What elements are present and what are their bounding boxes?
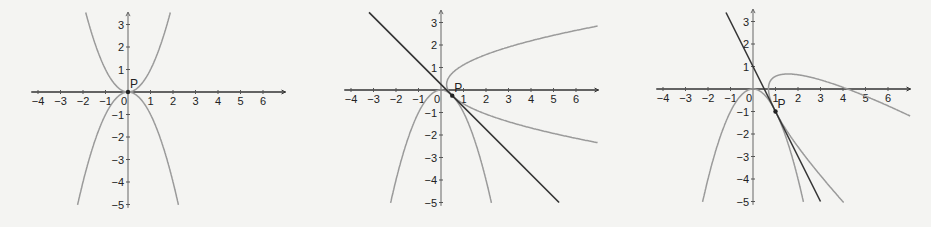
x-tick-label: 6 [260, 95, 266, 107]
y-tick-label: −2 [736, 128, 749, 140]
x-tick-label: −1 [412, 93, 425, 105]
x-tick-label: 0 [434, 93, 440, 105]
x-tick-label: −1 [99, 95, 112, 107]
x-tick-label: 4 [840, 92, 846, 104]
x-tick-label: −4 [657, 92, 670, 104]
x-tick-label: 1 [147, 95, 153, 107]
point-p-label: P [130, 77, 138, 91]
x-tick-label: −3 [54, 95, 67, 107]
y-tick-label: −4 [736, 173, 749, 185]
x-tick-label: −1 [724, 92, 737, 104]
x-tick-label: 0 [746, 92, 752, 104]
y-tick-label: −3 [111, 154, 124, 166]
x-tick-label: 5 [862, 92, 868, 104]
plots-canvas: −4−3−2−10123456321−1−2−3−4−5P −4−3−2−101… [0, 0, 931, 227]
point-p-label: P [454, 81, 462, 95]
y-tick-label: −5 [736, 196, 749, 208]
x-tick-label: 3 [192, 95, 198, 107]
x-tick-label: −4 [345, 93, 358, 105]
x-tick-label: 3 [505, 93, 511, 105]
y-tick-label: −2 [424, 129, 437, 141]
x-tick-label: −4 [32, 95, 45, 107]
figure-three-panels: −4−3−2−10123456321−1−2−3−4−5P −4−3−2−101… [0, 0, 931, 227]
point-p-label: P [778, 97, 786, 111]
x-tick-label: 4 [528, 93, 534, 105]
y-tick-label: −1 [111, 109, 124, 121]
y-tick-label: −4 [424, 174, 437, 186]
y-tick-label: −5 [111, 199, 124, 211]
y-tick-label: −1 [424, 107, 437, 119]
x-tick-label: −2 [77, 95, 90, 107]
y-tick-label: 2 [118, 41, 124, 53]
panel-middle-plot: −4−3−2−10123456321−1−2−3−4−5P [344, 10, 598, 208]
y-tick-label: −4 [111, 176, 124, 188]
y-tick-label: −2 [111, 131, 124, 143]
y-tick-label: −3 [736, 151, 749, 163]
x-tick-label: 3 [817, 92, 823, 104]
y-tick-label: 3 [118, 19, 124, 31]
y-tick-label: 3 [431, 17, 437, 29]
x-tick-label: 2 [795, 92, 801, 104]
x-tick-label: 5 [237, 95, 243, 107]
x-tick-label: 2 [170, 95, 176, 107]
x-tick-label: 4 [215, 95, 221, 107]
y-tick-label: 1 [743, 61, 749, 73]
x-tick-label: 0 [121, 95, 127, 107]
x-tick-label: −3 [679, 92, 692, 104]
y-tick-label: 2 [431, 39, 437, 51]
x-tick-label: −3 [367, 93, 380, 105]
x-tick-label: −2 [390, 93, 403, 105]
x-tick-label: 6 [885, 92, 891, 104]
y-tick-label: −1 [736, 106, 749, 118]
y-tick-label: 3 [743, 16, 749, 28]
x-tick-label: 2 [483, 93, 489, 105]
x-tick-label: 6 [573, 93, 579, 105]
x-tick-label: −2 [702, 92, 715, 104]
panel-left-plot: −4−3−2−10123456321−1−2−3−4−5P [31, 12, 285, 210]
y-tick-label: 1 [118, 64, 124, 76]
x-tick-label: 5 [550, 93, 556, 105]
y-tick-label: −3 [424, 152, 437, 164]
panel-right-plot: −4−3−2−10123456321−1−2−3−4−5P [656, 9, 910, 207]
y-tick-label: −5 [424, 197, 437, 209]
y-tick-label: 1 [431, 62, 437, 74]
